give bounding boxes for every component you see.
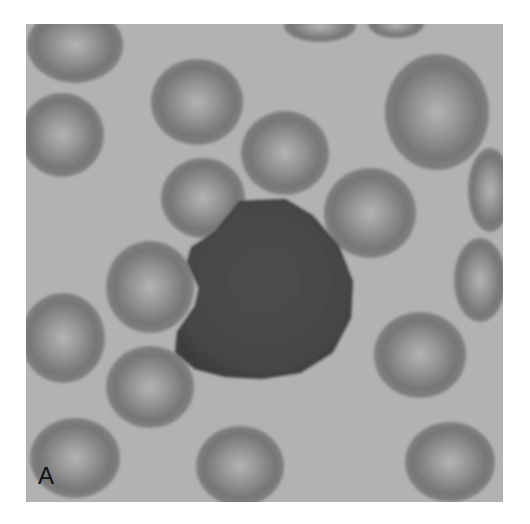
red-blood-cell [374,312,466,398]
red-blood-cell [454,238,506,322]
red-blood-cell [196,426,284,506]
panel-label: A [38,462,54,490]
red-blood-cell [20,93,104,177]
red-blood-cell [151,59,243,145]
red-blood-cell [21,293,105,383]
red-blood-cell [284,10,356,42]
red-blood-cell [405,422,495,502]
red-blood-cell [368,10,424,38]
red-blood-cell [385,54,489,170]
red-blood-cell [106,346,194,428]
red-blood-cell [241,111,329,195]
red-blood-cell [468,148,512,232]
red-blood-cell [27,7,123,83]
blood-smear-micrograph [0,0,530,524]
red-blood-cell [106,241,194,333]
